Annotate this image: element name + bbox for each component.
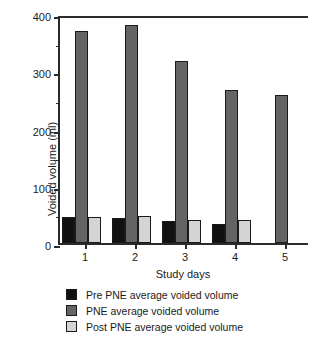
legend-item-label: Pre PNE average voided volume	[86, 289, 238, 301]
y-axis-tick-label: 400	[21, 12, 51, 23]
bar	[175, 61, 188, 243]
y-axis-tick-label: 0	[21, 241, 51, 252]
chart-legend: Pre PNE average voided volumePNE average…	[66, 287, 316, 335]
y-axis-minor-tick	[56, 46, 60, 47]
x-axis-tick-label: 3	[182, 251, 188, 263]
x-axis-tick	[235, 243, 237, 249]
x-axis-tick-label: 4	[232, 251, 238, 263]
x-axis-tick-label: 1	[82, 251, 88, 263]
y-axis-tick	[54, 17, 60, 19]
bar	[162, 221, 175, 243]
x-axis-tick	[285, 243, 287, 249]
y-axis-minor-tick	[56, 103, 60, 104]
legend-swatch-icon	[66, 321, 77, 332]
y-axis-minor-tick	[56, 160, 60, 161]
bar	[112, 218, 125, 243]
bar	[138, 216, 151, 243]
y-axis-tick	[54, 246, 60, 248]
y-axis-minor-tick	[56, 217, 60, 218]
x-axis-tick	[185, 243, 187, 249]
x-axis-tick	[85, 243, 87, 249]
legend-item: Post PNE average voided volume	[66, 319, 316, 334]
legend-swatch-icon	[66, 289, 77, 300]
x-axis-title: Study days	[58, 268, 308, 280]
legend-item-label: PNE average voided volume	[86, 305, 219, 317]
legend-swatch-icon	[66, 305, 77, 316]
bar	[125, 25, 138, 243]
y-axis-tick-label: 300	[21, 69, 51, 80]
bar	[238, 220, 251, 243]
bar	[275, 95, 288, 243]
x-axis-tick-label: 5	[282, 251, 288, 263]
legend-item-label: Post PNE average voided volume	[86, 321, 243, 333]
bar	[212, 224, 225, 243]
legend-item: Pre PNE average voided volume	[66, 287, 316, 302]
bar	[75, 31, 88, 243]
chart-figure: Voided volume (ml) 010020030040012345 St…	[0, 0, 323, 337]
x-axis-tick-label: 2	[132, 251, 138, 263]
bar	[188, 220, 201, 243]
bar	[225, 90, 238, 243]
y-axis-tick	[54, 74, 60, 76]
y-axis-tick	[54, 189, 60, 191]
bar	[62, 217, 75, 243]
bar	[88, 217, 101, 243]
plot-area: 010020030040012345	[58, 16, 308, 245]
legend-item: PNE average voided volume	[66, 303, 316, 318]
y-axis-tick-label: 100	[21, 184, 51, 195]
y-axis-tick	[54, 132, 60, 134]
y-axis-tick-label: 200	[21, 127, 51, 138]
x-axis-tick	[135, 243, 137, 249]
